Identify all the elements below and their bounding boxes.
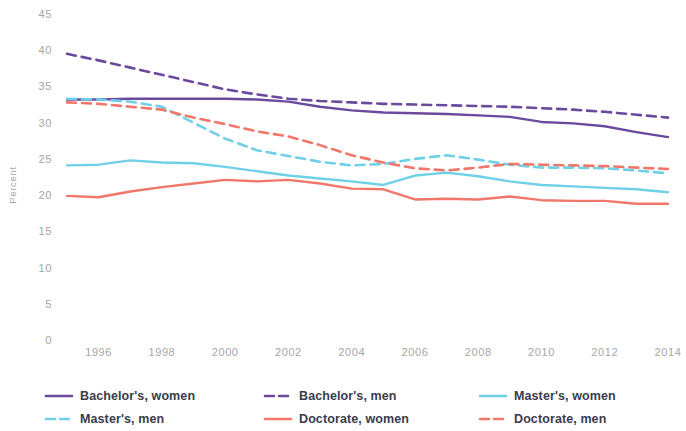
y-axis-tick-label: 5 [45, 298, 52, 310]
x-axis-tick-label: 2004 [338, 346, 365, 358]
y-axis-tick-label: 25 [39, 153, 52, 165]
legend-label: Bachelor's, women [80, 389, 195, 403]
legend-item[interactable]: Master's, women [480, 389, 616, 403]
legend-label: Doctorate, women [299, 412, 409, 426]
y-axis-tick-label: 45 [39, 8, 52, 20]
x-axis-tick-group: 1996199820002002200420062008201020122014 [85, 346, 681, 358]
y-axis-tick-label: 35 [39, 80, 52, 92]
series-group [67, 54, 668, 204]
legend-item[interactable]: Bachelor's, men [265, 389, 397, 403]
legend-item[interactable]: Doctorate, men [480, 412, 606, 426]
x-axis-tick-label: 2010 [528, 346, 555, 358]
x-axis-tick-label: 2006 [402, 346, 429, 358]
legend-label: Doctorate, men [514, 412, 606, 426]
x-axis-tick-label: 2000 [212, 346, 239, 358]
y-axis-tick-label: 30 [39, 117, 52, 129]
y-axis-tick-group: 051015202530354045 [39, 8, 52, 346]
legend-label: Bachelor's, men [299, 389, 397, 403]
x-axis-tick-label: 2002 [275, 346, 302, 358]
legend-item[interactable]: Bachelor's, women [46, 389, 195, 403]
y-axis-tick-label: 0 [45, 334, 52, 346]
legend-item[interactable]: Master's, men [46, 412, 164, 426]
legend-label: Master's, women [514, 389, 616, 403]
x-axis-tick-label: 2014 [655, 346, 682, 358]
line-chart: 051015202530354045 199619982000200220042… [0, 0, 686, 431]
legend-label: Master's, men [80, 412, 164, 426]
y-axis-tick-label: 20 [39, 189, 52, 201]
y-axis-tick-label: 15 [39, 225, 52, 237]
y-axis-title: Percent [7, 166, 18, 204]
x-axis-tick-label: 1998 [148, 346, 175, 358]
series-line-0 [67, 99, 668, 137]
x-axis-tick-label: 2012 [591, 346, 618, 358]
chart-legend: Bachelor's, womenBachelor's, menMaster's… [46, 389, 616, 426]
chart-canvas: 051015202530354045 199619982000200220042… [0, 0, 686, 431]
y-axis-tick-label: 40 [39, 44, 52, 56]
x-axis-tick-label: 1996 [85, 346, 112, 358]
x-axis-tick-label: 2008 [465, 346, 492, 358]
y-axis-tick-label: 10 [39, 262, 52, 274]
legend-item[interactable]: Doctorate, women [265, 412, 409, 426]
